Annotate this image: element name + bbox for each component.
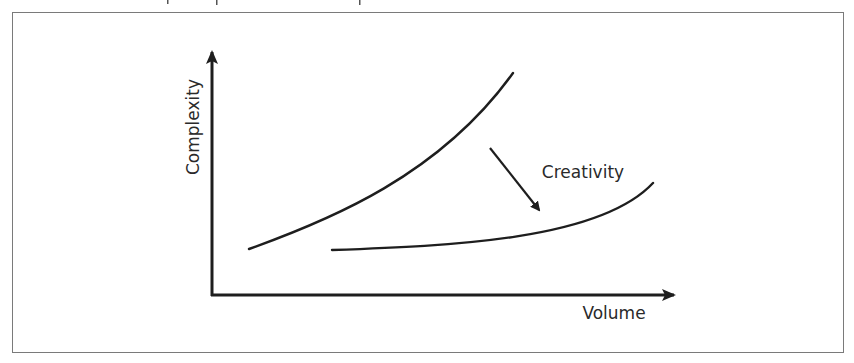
x-axis-label: Volume [582, 303, 645, 323]
creativity-arrow-icon [490, 148, 539, 210]
complexity-volume-diagram: Complexity Volume Creativity [0, 0, 854, 363]
creativity-label: Creativity [542, 162, 624, 182]
upper-curve [249, 73, 513, 249]
cropped-text-descenders [167, 0, 361, 5]
y-axis-label: Complexity [183, 79, 203, 175]
lower-curve [332, 183, 653, 250]
